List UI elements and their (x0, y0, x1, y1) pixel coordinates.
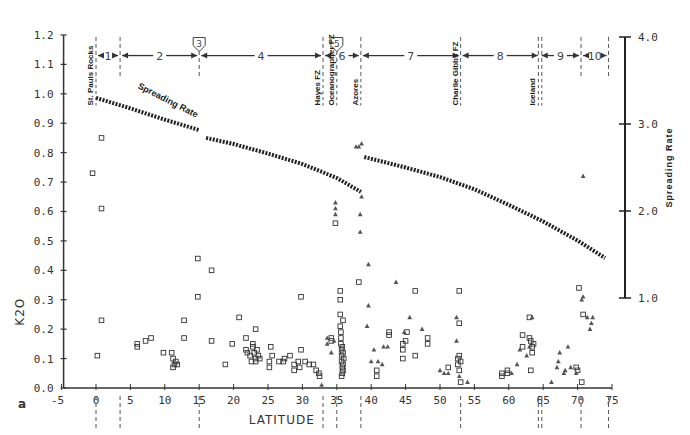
data-point (394, 279, 399, 283)
data-point (237, 315, 242, 320)
data-point (171, 356, 176, 361)
data-point (520, 333, 525, 338)
data-point (223, 362, 228, 367)
data-point (314, 368, 319, 373)
x-tick-label: 60 (502, 394, 515, 407)
data-point (529, 339, 534, 344)
x-tick-label: 25 (261, 394, 274, 407)
data-point (135, 342, 140, 347)
data-point (174, 359, 179, 364)
data-point (387, 330, 392, 335)
data-point (333, 212, 338, 216)
data-point (341, 318, 346, 323)
data-point (95, 353, 100, 358)
province-label: 8 (497, 50, 504, 63)
data-point (381, 344, 386, 348)
data-point (401, 356, 406, 361)
data-point (341, 350, 346, 355)
y-tick-label: 0.6 (34, 205, 54, 218)
y-tick-label: 0.4 (34, 264, 54, 277)
data-point (581, 174, 586, 178)
data-point (515, 362, 520, 366)
data-point (458, 380, 463, 385)
y2-axis: 1.02.03.04.0Spreading Rate (619, 31, 674, 305)
x-tick-label: -5 (51, 394, 64, 407)
data-point (465, 380, 470, 384)
data-point (500, 371, 505, 376)
squares-series (90, 136, 585, 385)
province-label: 6 (338, 50, 345, 63)
data-point (579, 380, 584, 385)
data-point (588, 327, 593, 331)
data-point (245, 350, 250, 355)
data-point (338, 324, 343, 329)
data-point (549, 380, 554, 384)
data-point (530, 350, 535, 355)
data-point (425, 342, 430, 347)
x-tick-label: 5 (127, 394, 134, 407)
data-point (401, 342, 406, 347)
data-point (319, 382, 324, 386)
data-point (358, 212, 363, 216)
province-label: 1 (105, 50, 112, 63)
data-point (299, 294, 304, 299)
data-point (299, 347, 304, 352)
data-point (169, 350, 174, 355)
y-tick-label: 1.0 (34, 88, 54, 101)
x-tick-label: 20 (227, 394, 240, 407)
data-point (566, 344, 571, 348)
data-point (446, 371, 451, 375)
data-point (524, 353, 529, 357)
data-point (380, 362, 385, 366)
data-point (333, 221, 338, 226)
data-point (366, 303, 371, 307)
data-point (329, 336, 334, 341)
data-point (581, 294, 586, 298)
data-point (574, 365, 579, 370)
data-point (270, 353, 275, 358)
data-point (425, 336, 430, 341)
data-point (590, 315, 595, 319)
data-point (376, 359, 381, 363)
data-point (527, 336, 532, 341)
data-point (500, 374, 505, 379)
data-point (365, 324, 370, 328)
x-tick-label: 40 (365, 394, 378, 407)
feature-label: Charlie Gibbs FZ (451, 41, 460, 105)
data-point (556, 359, 561, 363)
data-point (288, 353, 293, 358)
data-point (454, 315, 459, 319)
data-point (196, 256, 201, 261)
y-tick-label: 0.5 (34, 235, 54, 248)
k2o-latitude-chart: 0.00.10.20.30.40.50.60.70.80.91.01.11.2K… (0, 0, 690, 435)
triangles-series (319, 141, 595, 387)
data-point (387, 333, 392, 338)
province-label: 10 (588, 50, 602, 63)
spreading-rate-curve (96, 98, 605, 258)
data-point (338, 312, 343, 317)
province-label: 9 (557, 50, 564, 63)
data-point (457, 353, 462, 358)
data-point (458, 359, 463, 364)
data-point (209, 268, 214, 273)
y-tick-label: 0.1 (34, 353, 54, 366)
x-tick-label: 55 (468, 394, 481, 407)
data-point (329, 350, 334, 354)
y2-tick-label: 1.0 (638, 292, 658, 305)
data-point (339, 330, 344, 335)
data-point (339, 342, 344, 347)
data-point (244, 347, 249, 352)
data-point (251, 342, 256, 347)
data-point (457, 289, 462, 294)
data-point (135, 345, 140, 350)
data-point (297, 365, 302, 370)
data-point (555, 365, 560, 369)
data-point (267, 365, 272, 370)
x-tick-label: 30 (296, 394, 309, 407)
data-point (413, 353, 418, 358)
feature-label: St. Pauls Rocks (86, 45, 95, 106)
province-label: 4 (258, 50, 265, 63)
data-point (577, 286, 582, 291)
data-point (413, 289, 418, 294)
x-tick-label: 75 (605, 394, 618, 407)
